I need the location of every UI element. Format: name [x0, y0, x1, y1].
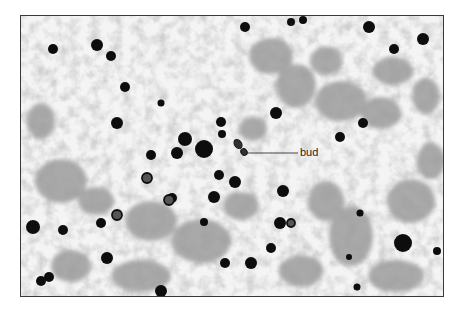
- ringed-cell: [287, 219, 295, 227]
- yeast-cell: [146, 150, 156, 160]
- micrograph-panel: bud: [20, 15, 444, 297]
- yeast-cell: [178, 132, 192, 146]
- yeast-cell: [120, 82, 130, 92]
- yeast-cell: [158, 100, 165, 107]
- yeast-cell: [48, 44, 58, 54]
- yeast-cell: [417, 33, 429, 45]
- yeast-cell: [229, 176, 241, 188]
- yeast-cell: [111, 117, 123, 129]
- ringed-cell: [142, 173, 152, 183]
- yeast-cell: [216, 117, 226, 127]
- yeast-cell: [270, 107, 282, 119]
- yeast-cell: [195, 140, 213, 158]
- yeast-cell: [394, 234, 412, 252]
- bud-annotation-label: bud: [300, 147, 318, 158]
- yeast-cell: [171, 147, 183, 159]
- yeast-cell: [389, 44, 399, 54]
- yeast-cell: [277, 185, 289, 197]
- yeast-cell: [245, 257, 257, 269]
- yeast-cell: [208, 191, 220, 203]
- yeast-cell: [240, 22, 250, 32]
- yeast-cell: [358, 118, 368, 128]
- ringed-cell: [112, 210, 122, 220]
- yeast-cell: [96, 218, 106, 228]
- yeast-cell: [44, 272, 54, 282]
- yeast-cell: [299, 16, 307, 24]
- yeast-cell: [218, 130, 226, 138]
- yeast-cell: [220, 258, 230, 268]
- yeast-cell: [354, 284, 361, 291]
- yeast-cell: [26, 220, 40, 234]
- yeast-cell: [266, 243, 276, 253]
- yeast-cell: [433, 247, 441, 255]
- yeast-cell: [363, 21, 375, 33]
- yeast-cell: [91, 39, 103, 51]
- yeast-cell: [58, 225, 68, 235]
- yeast-cell: [357, 210, 364, 217]
- yeast-cell: [274, 217, 286, 229]
- yeast-cell: [106, 51, 116, 61]
- yeast-cell: [155, 285, 167, 297]
- ringed-cell: [164, 195, 174, 205]
- yeast-cell: [346, 254, 352, 260]
- yeast-cell: [287, 18, 295, 26]
- yeast-cell: [101, 252, 113, 264]
- micrograph-image: [21, 16, 444, 297]
- yeast-cell: [335, 132, 345, 142]
- yeast-cell: [214, 170, 224, 180]
- yeast-cell: [200, 218, 208, 226]
